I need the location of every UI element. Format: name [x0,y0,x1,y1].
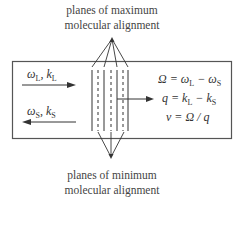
stokes-wave-label: ωS, kS [27,104,56,120]
top-arrowhead-icon [110,37,115,42]
top-pointer-lines [92,39,128,67]
min-alignment-label-line2: molecular alignment [0,183,224,198]
bottom-pointer-lines [98,132,124,157]
eq1-lhs: Ω = ω [158,72,189,86]
min-alignment-label: planes of minimum molecular alignment [0,168,224,198]
eq2-sub2: S [212,98,216,107]
grating-arrowhead-icon [146,96,154,102]
laser-k-sub: L [52,74,57,83]
eq1-mid: − ω [194,72,217,86]
eq2-mid: − k [192,91,211,105]
bottom-arrowhead-icon [109,154,114,159]
dashed-planes [98,70,123,131]
q-equation: q = kL − kS [162,91,216,107]
laser-arrowhead-icon [67,82,76,88]
eq2-lhs: q = k [162,91,187,105]
omega-equation: Ω = ωL − ωS [158,72,221,88]
laser-wave-label: ωL, kL [27,67,57,83]
stokes-k-sub: S [51,111,55,120]
velocity-equation: v = Ω / q [166,110,209,125]
min-alignment-label-line1: planes of minimum [0,168,224,183]
eq1-sub2: S [217,79,221,88]
